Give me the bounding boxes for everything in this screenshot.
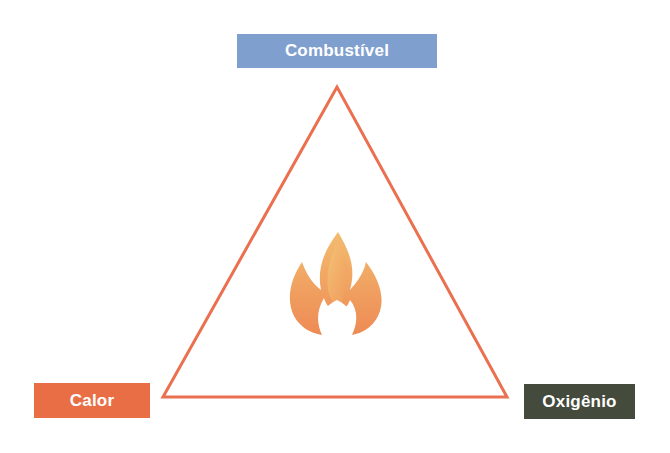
oxygen-label: Oxigênio <box>524 384 635 419</box>
heat-label: Calor <box>34 383 150 418</box>
flame-icon <box>290 232 382 336</box>
fuel-label: Combustível <box>237 34 437 68</box>
